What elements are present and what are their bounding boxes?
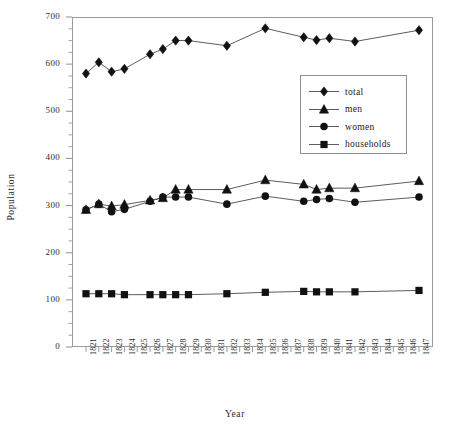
data-point-circle-marker (159, 193, 167, 201)
data-point-triangle-marker (261, 175, 270, 184)
data-point-square-marker (326, 288, 333, 295)
data-point-circle-marker (108, 208, 116, 216)
data-point-circle-marker (351, 198, 359, 206)
y-tick-label: 500 (30, 105, 60, 115)
x-tick-label: 1838 (307, 338, 316, 355)
x-tick-label: 1835 (269, 338, 278, 355)
x-tick-label: 1828 (179, 338, 188, 355)
data-point-square-marker (121, 291, 128, 298)
data-point-square-marker (82, 290, 89, 297)
x-tick-label: 1832 (230, 338, 239, 355)
legend-label: men (345, 104, 362, 114)
y-tick-label: 300 (30, 200, 60, 210)
data-point-square-marker (300, 288, 307, 295)
data-point-diamond-marker (172, 36, 179, 45)
data-point-diamond-marker (82, 69, 89, 78)
legend-marker (319, 104, 328, 113)
data-point-circle-marker (262, 192, 270, 200)
x-tick-label: 1831 (217, 338, 226, 355)
data-point-square-marker (415, 287, 422, 294)
x-tick-label: 1847 (422, 338, 431, 355)
series-women (82, 192, 423, 215)
data-point-diamond-marker (313, 35, 320, 44)
data-point-circle-marker (82, 206, 90, 214)
legend-label: households (345, 139, 391, 149)
legend-item-households[interactable]: households (307, 136, 391, 153)
x-tick-label: 1834 (256, 338, 265, 355)
data-point-diamond-marker (108, 67, 115, 76)
data-point-diamond-marker (121, 64, 128, 73)
data-point-square-marker (172, 291, 179, 298)
series-households (82, 287, 422, 298)
data-point-circle-marker (300, 198, 308, 206)
data-point-triangle-marker (184, 184, 193, 193)
x-tick-label: 1822 (102, 338, 111, 355)
data-point-circle-marker (313, 196, 321, 204)
data-point-square-marker (351, 288, 358, 295)
data-point-diamond-marker (300, 33, 307, 42)
data-series-layer (0, 0, 451, 432)
data-point-diamond-marker (326, 34, 333, 43)
legend-marker (320, 140, 327, 147)
data-point-diamond-marker (223, 41, 230, 50)
y-tick-label: 700 (30, 11, 60, 21)
square-icon (307, 136, 341, 153)
y-tick-label: 200 (30, 247, 60, 257)
x-tick-label: 1844 (384, 338, 393, 355)
circle-icon (307, 118, 341, 135)
data-point-circle-marker (121, 206, 129, 214)
y-tick-label: 400 (30, 152, 60, 162)
data-point-diamond-marker (95, 58, 102, 67)
series-line (86, 290, 419, 294)
legend-item-women[interactable]: women (307, 118, 374, 135)
data-point-circle-marker (185, 193, 193, 201)
data-point-diamond-marker (146, 50, 153, 59)
x-tick-label: 1843 (371, 338, 380, 355)
x-tick-label: 1821 (89, 338, 98, 355)
data-point-square-marker (95, 290, 102, 297)
data-point-circle-marker (326, 195, 334, 203)
y-tick-label: 600 (30, 58, 60, 68)
x-tick-label: 1836 (281, 338, 290, 355)
chart-legend: totalmenwomenhouseholds (300, 75, 407, 154)
x-tick-label: 1842 (358, 338, 367, 355)
data-point-square-marker (159, 291, 166, 298)
series-men (81, 175, 423, 213)
data-point-circle-marker (415, 193, 423, 201)
data-point-diamond-marker (159, 44, 166, 53)
data-point-square-marker (185, 291, 192, 298)
x-tick-label: 1823 (115, 338, 124, 355)
x-tick-label: 1830 (204, 338, 213, 355)
x-tick-label: 1845 (397, 338, 406, 355)
x-tick-label: 1827 (166, 338, 175, 355)
data-point-diamond-marker (415, 26, 422, 35)
series-line (86, 28, 419, 73)
data-point-diamond-marker (185, 36, 192, 45)
data-point-diamond-marker (351, 37, 358, 46)
legend-marker (320, 123, 328, 131)
x-tick-label: 1833 (243, 338, 252, 355)
x-tick-label: 1829 (192, 338, 201, 355)
data-point-square-marker (108, 290, 115, 297)
data-point-square-marker (262, 289, 269, 296)
legend-label: women (345, 122, 374, 132)
data-point-triangle-marker (414, 176, 423, 185)
y-tick-label: 100 (30, 294, 60, 304)
legend-item-total[interactable]: total (307, 83, 363, 100)
data-point-square-marker (146, 291, 153, 298)
data-point-diamond-marker (262, 24, 269, 33)
data-point-triangle-marker (171, 184, 180, 193)
x-tick-label: 1825 (140, 338, 149, 355)
diamond-icon (307, 83, 341, 100)
y-tick-label: 0 (30, 341, 60, 351)
x-tick-label: 1840 (333, 338, 342, 355)
data-point-circle-marker (95, 200, 103, 208)
series-total (82, 24, 422, 78)
series-line (86, 196, 419, 212)
x-tick-label: 1839 (320, 338, 329, 355)
population-line-chart: Population Year 0100200300400500600700 1… (0, 0, 451, 432)
legend-item-men[interactable]: men (307, 101, 362, 118)
x-tick-label: 1846 (409, 338, 418, 355)
data-point-square-marker (313, 288, 320, 295)
legend-label: total (345, 87, 363, 97)
